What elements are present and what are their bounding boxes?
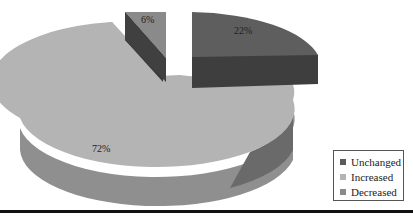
legend-swatch-increased <box>340 174 346 180</box>
chart-legend: Unchanged Increased Decreased <box>333 150 404 201</box>
label-unchanged: 22% <box>234 25 252 36</box>
legend-label: Unchanged <box>351 156 401 168</box>
label-decreased: 6% <box>141 14 154 25</box>
legend-item-decreased: Decreased <box>340 184 403 199</box>
legend-item-unchanged: Unchanged <box>340 154 403 169</box>
legend-item-increased: Increased <box>340 169 403 184</box>
bottom-rule <box>0 210 413 213</box>
legend-swatch-unchanged <box>340 159 346 165</box>
slice-unchanged <box>192 12 318 88</box>
legend-label: Increased <box>351 171 393 183</box>
legend-swatch-decreased <box>340 189 346 195</box>
legend-label: Decreased <box>351 186 397 198</box>
label-increased: 72% <box>92 143 110 154</box>
